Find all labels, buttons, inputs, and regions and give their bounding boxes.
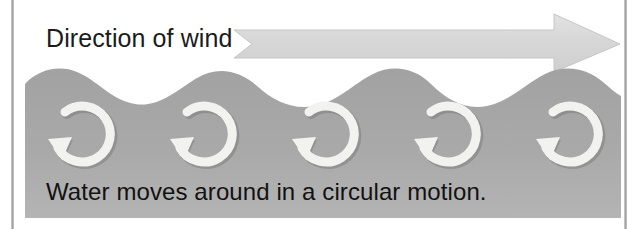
frame-rule-left xyxy=(11,0,14,229)
frame-rule-right xyxy=(624,0,627,229)
water-motion-caption: Water moves around in a circular motion. xyxy=(46,177,487,206)
ocean-wave-circular-motion-diagram: Direction of wind xyxy=(0,0,637,229)
wind-direction-label: Direction of wind xyxy=(46,23,233,53)
